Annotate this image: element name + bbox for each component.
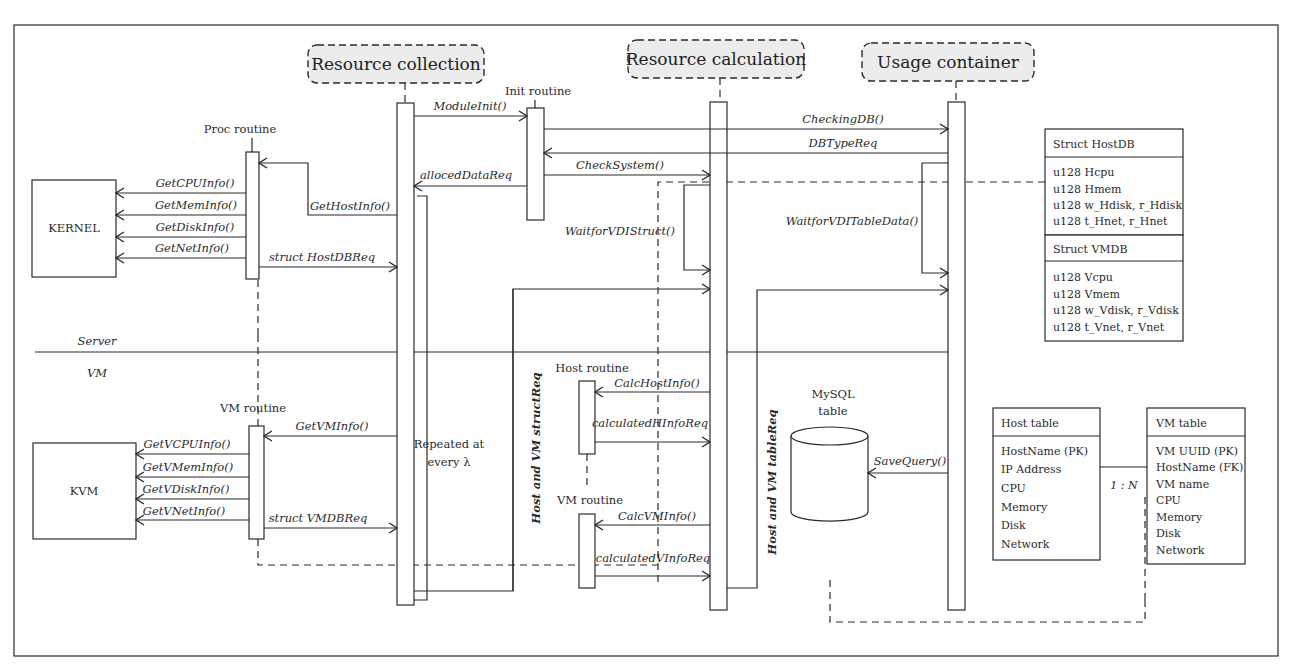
activation-vm-routine (249, 426, 264, 539)
svg-text:VM table: VM table (1155, 417, 1207, 430)
svg-text:Host table: Host table (1001, 417, 1059, 430)
relation-cardinality-label: 1 : N (1110, 479, 1138, 492)
get-vm-info-label: GetVMInfo() (296, 419, 369, 433)
kvm-label: KVM (70, 484, 99, 498)
get-cpu-info-label: GetCPUInfo() (156, 176, 235, 190)
participant-resource-calculation: Resource calculation (626, 40, 807, 102)
waitfor-vdi-struct-label: WaitforVDIStruct() (565, 224, 675, 238)
svg-text:u128 Vcpu: u128 Vcpu (1053, 271, 1113, 284)
get-disk-info-label: GetDiskInfo() (156, 220, 234, 234)
host-vm-struct-req-label: Host and VM structReq (529, 372, 543, 524)
get-host-info-label: GetHostInfo() (310, 199, 390, 213)
svg-text:CPU: CPU (1156, 494, 1181, 507)
host-vm-table-req-label: Host and VM tableReq (765, 409, 779, 555)
kernel-label: KERNEL (48, 221, 100, 235)
svg-text:Memory: Memory (1001, 501, 1048, 514)
svg-text:CPU: CPU (1001, 482, 1026, 495)
module-init-label: ModuleInit() (432, 99, 506, 113)
svg-text:HostName (PK): HostName (PK) (1001, 445, 1088, 458)
zone-label-vm: VM (87, 366, 108, 380)
activation-resource-collection (397, 103, 414, 605)
get-vnet-info-label: GetVNetInfo() (143, 504, 226, 518)
calc-vm-info-label: CalcVMInfo() (618, 509, 696, 523)
svg-text:u128 w_Hdisk, r_Hdisk: u128 w_Hdisk, r_Hdisk (1053, 199, 1183, 212)
svg-text:u128 t_Vnet, r_Vnet: u128 t_Vnet, r_Vnet (1053, 321, 1165, 334)
waitfor-vdi-table-data-loop (922, 163, 948, 273)
activation-vm-calc-routine (579, 514, 595, 588)
host-table: Host table HostName (PK) IP Address CPU … (993, 408, 1100, 560)
calc-host-info-label: CalcHostInfo() (614, 376, 699, 390)
activation-proc-routine (246, 152, 259, 279)
vm-routine-label: VM routine (219, 401, 286, 415)
struct-vmdb-req-label: struct VMDBReq (269, 511, 368, 525)
participant-usage-container: Usage container (862, 43, 1034, 102)
mysql-label-line2: table (818, 404, 848, 418)
vm-table: VM table VM UUID (PK) HostName (FK) VM n… (1147, 408, 1245, 564)
svg-text:u128 w_Vdisk, r_Vdisk: u128 w_Vdisk, r_Vdisk (1053, 304, 1179, 317)
svg-text:u128 t_Hnet, r_Hnet: u128 t_Hnet, r_Hnet (1053, 215, 1168, 228)
svg-text:Network: Network (1001, 538, 1050, 551)
activation-resource-calculation (710, 102, 727, 610)
struct-vmdb: Struct VMDB u128 Vcpu u128 Vmem u128 w_V… (1045, 235, 1183, 341)
waitfor-vdi-struct-loop (684, 185, 710, 270)
activation-init-routine (527, 108, 544, 220)
svg-text:IP Address: IP Address (1001, 463, 1062, 476)
svg-text:Struct VMDB: Struct VMDB (1053, 243, 1128, 256)
proc-routine-label: Proc routine (204, 122, 277, 136)
mysql-label-line1: MySQL (811, 387, 855, 401)
repeated-label-line2: every λ (427, 455, 470, 469)
dashed-mysql-table-link (830, 580, 1145, 622)
participant-label: Resource calculation (626, 49, 807, 69)
init-routine-label: Init routine (505, 84, 571, 98)
svg-text:u128 Hcpu: u128 Hcpu (1053, 166, 1114, 179)
get-net-info-label: GetNetInfo() (155, 241, 229, 255)
get-mem-info-label: GetMemInfo() (155, 198, 237, 212)
mysql-database-icon (791, 427, 868, 521)
sequence-diagram: Resource collection Resource calculation… (0, 0, 1296, 670)
svg-text:HostName (FK): HostName (FK) (1156, 461, 1243, 474)
loop-return-bracket (414, 196, 427, 600)
svg-text:u128 Hmem: u128 Hmem (1053, 183, 1122, 196)
check-system-label: CheckSystem() (576, 158, 664, 172)
db-type-req-label: DBTypeReq (808, 136, 878, 150)
svg-text:VM name: VM name (1155, 478, 1209, 491)
get-vdisk-info-label: GetVDiskInfo() (143, 482, 230, 496)
participant-label: Resource collection (311, 54, 481, 74)
waitfor-vdi-table-data-label: WaitforVDITableData() (786, 214, 919, 228)
svg-text:Disk: Disk (1156, 527, 1181, 540)
host-routine-label: Host routine (555, 361, 629, 375)
get-vcpu-info-label: GetVCPUInfo() (143, 437, 230, 451)
save-query-label: SaveQuery() (874, 454, 947, 468)
alloced-data-req-label: allocedDataReq (420, 168, 512, 182)
participant-label: Usage container (877, 52, 1020, 72)
zone-label-server: Server (78, 334, 118, 348)
calculated-vinfo-req-label: calculatedVInfoReq (596, 551, 710, 565)
calculated-hinfo-req-label: calculatedHInfoReq (592, 416, 708, 430)
struct-hostdb: Struct HostDB u128 Hcpu u128 Hmem u128 w… (1045, 129, 1183, 235)
participant-resource-collection: Resource collection (308, 45, 484, 103)
svg-text:Network: Network (1156, 544, 1205, 557)
svg-text:Memory: Memory (1156, 511, 1203, 524)
svg-text:u128 Vmem: u128 Vmem (1053, 288, 1120, 301)
svg-text:VM UUID (PK): VM UUID (PK) (1155, 445, 1238, 458)
svg-text:Struct HostDB: Struct HostDB (1053, 138, 1135, 151)
get-vmem-info-label: GetVMemInfo() (143, 460, 234, 474)
vm-calc-routine-label: VM routine (556, 493, 623, 507)
svg-text:Disk: Disk (1001, 519, 1026, 532)
activation-usage-container (948, 102, 965, 610)
checking-db-label: CheckingDB() (802, 112, 884, 126)
struct-hostdb-req-label: struct HostDBReq (269, 250, 375, 264)
repeated-label-line1: Repeated at (414, 437, 485, 451)
